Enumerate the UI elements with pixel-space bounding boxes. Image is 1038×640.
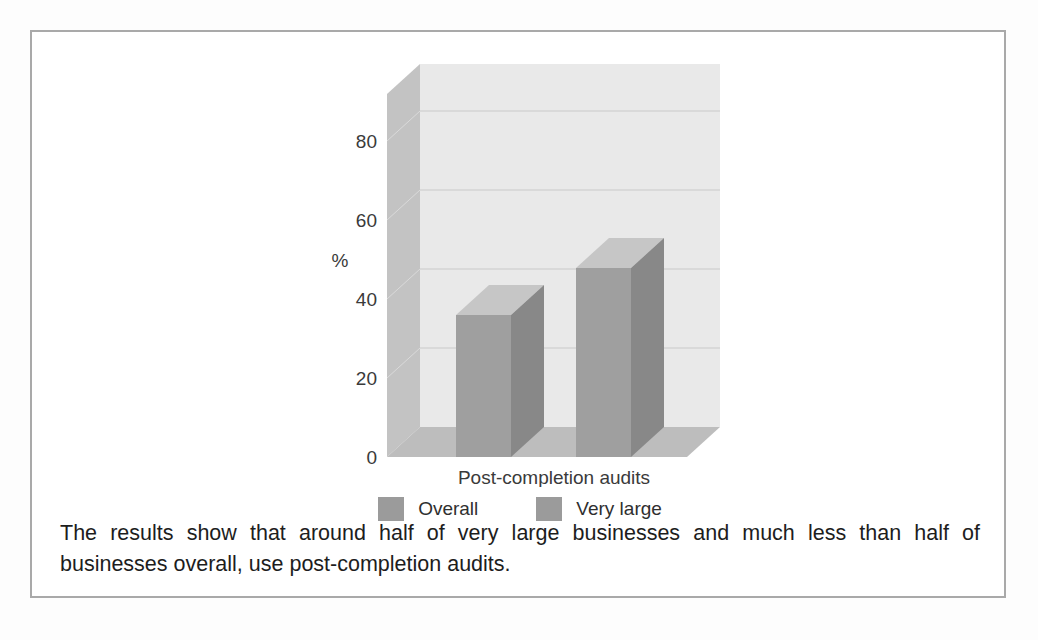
bar-overall: [456, 285, 544, 457]
bar-overall-side: [511, 285, 544, 457]
legend-label-very-large: Very large: [576, 498, 662, 520]
legend-label-overall: Overall: [418, 498, 478, 520]
x-category-label: Post-completion audits: [458, 467, 650, 487]
bar-very-large-side: [631, 238, 664, 457]
chart-floor: [387, 427, 720, 457]
y-tick-40: 40: [356, 289, 377, 310]
y-tick-60: 60: [356, 210, 377, 231]
y-axis-title: %: [332, 250, 349, 271]
bar-very-large-front: [576, 268, 631, 457]
chart-container: 0 20 40 60 80 % Post-completion audits: [32, 32, 1008, 487]
figure-caption-text: The results show that around half of ver…: [60, 518, 980, 580]
bar-very-large: [576, 238, 664, 457]
y-tick-80: 80: [356, 131, 377, 152]
bar-chart-3d: 0 20 40 60 80 % Post-completion audits: [32, 32, 1008, 487]
chart-left-wall: [387, 64, 420, 457]
figure-frame: 0 20 40 60 80 % Post-completion audits O…: [30, 30, 1006, 598]
y-tick-20: 20: [356, 368, 377, 389]
y-tick-0: 0: [366, 447, 377, 468]
figure-root: 0 20 40 60 80 % Post-completion audits O…: [0, 0, 1038, 640]
figure-caption: The results show that around half of ver…: [32, 518, 1008, 596]
bar-overall-front: [456, 315, 511, 457]
y-axis-tick-labels: 0 20 40 60 80: [356, 131, 377, 468]
